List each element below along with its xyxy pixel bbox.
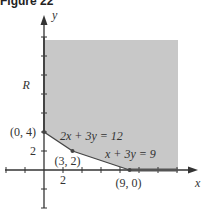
line-label: x + 3y = 9: [104, 147, 156, 161]
y-tick-label: 2: [30, 144, 36, 158]
line-label: 2x + 3y = 12: [60, 129, 123, 143]
x-axis-label: x: [194, 176, 201, 190]
point-label: (9, 0): [116, 176, 142, 190]
point-label: (3, 2): [55, 154, 81, 168]
feasible-region-diagram: xyR22(0, 4)(3, 2)(9, 0)2x + 3y = 12x + 3…: [0, 0, 210, 211]
x-tick-label: 2: [60, 173, 66, 187]
vertex-point: [128, 168, 132, 172]
point-label: (0, 4): [10, 125, 36, 139]
vertex-point: [71, 149, 75, 153]
vertex-point: [42, 130, 46, 134]
x-axis-arrow-icon: [188, 167, 198, 174]
y-axis-arrow-icon: [41, 15, 48, 25]
region-label: R: [22, 78, 31, 92]
y-axis-label: y: [51, 8, 58, 22]
